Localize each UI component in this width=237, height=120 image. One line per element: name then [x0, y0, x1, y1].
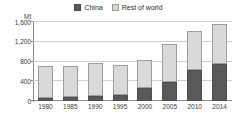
y-axis-ticks: 04008001,2001,600 — [0, 22, 31, 101]
bar-segment-china-1995[interactable] — [113, 95, 128, 101]
x-tick-label-1980: 1980 — [33, 103, 58, 111]
bar-segment-rest-of-world-2005[interactable] — [162, 44, 177, 82]
plot-area — [33, 22, 232, 101]
x-tick-label-2010: 2010 — [182, 103, 207, 111]
bar-group-1990[interactable] — [88, 22, 103, 101]
bar-segment-rest-of-world-2014[interactable] — [212, 24, 227, 64]
y-tick-label-400: 400 — [1, 78, 31, 85]
x-tick-label-2005: 2005 — [157, 103, 182, 111]
legend-item-china[interactable]: China — [74, 4, 102, 12]
x-tick-label-2014: 2014 — [207, 103, 232, 111]
x-tick-label-1990: 1990 — [83, 103, 108, 111]
bar-segment-rest-of-world-1990[interactable] — [88, 63, 103, 96]
bar-segment-rest-of-world-2010[interactable] — [187, 31, 202, 71]
bar-group-2005[interactable] — [162, 22, 177, 101]
bar-segment-china-2005[interactable] — [162, 82, 177, 101]
bar-segment-china-1985[interactable] — [63, 97, 78, 101]
legend-label-rest-of-world: Rest of world — [122, 4, 163, 12]
x-axis-labels: 19801985199019952000200520102014 — [33, 103, 232, 115]
x-tick-label-2000: 2000 — [133, 103, 158, 111]
bar-segment-rest-of-world-1980[interactable] — [38, 66, 53, 97]
y-tick-label-1200: 1,200 — [1, 38, 31, 45]
bar-group-1995[interactable] — [113, 22, 128, 101]
y-tick-label-0: 0 — [1, 98, 31, 105]
bar-segment-china-2014[interactable] — [212, 64, 227, 101]
bar-segment-rest-of-world-2000[interactable] — [137, 60, 152, 88]
bar-segment-rest-of-world-1985[interactable] — [63, 66, 78, 97]
bar-segment-rest-of-world-1995[interactable] — [113, 65, 128, 95]
bar-group-2014[interactable] — [212, 22, 227, 101]
legend-label-china: China — [84, 4, 102, 12]
bar-segment-china-2010[interactable] — [187, 70, 202, 101]
bar-group-1985[interactable] — [63, 22, 78, 101]
bar-segment-china-1990[interactable] — [88, 96, 103, 101]
bar-group-2000[interactable] — [137, 22, 152, 101]
chart-legend: China Rest of world — [0, 1, 237, 14]
x-tick-label-1985: 1985 — [58, 103, 83, 111]
bar-segment-china-2000[interactable] — [137, 88, 152, 101]
china-swatch-icon — [74, 4, 81, 11]
y-tick-label-800: 800 — [1, 58, 31, 65]
rest-of-world-swatch-icon — [112, 4, 119, 11]
bar-group-1980[interactable] — [38, 22, 53, 101]
bar-group-2010[interactable] — [187, 22, 202, 101]
x-tick-label-1995: 1995 — [108, 103, 133, 111]
y-tick-label-1600: 1,600 — [1, 19, 31, 26]
bar-series-container — [33, 22, 232, 101]
stacked-bar-chart: China Rest of world Mt 04008001,2001,600… — [0, 0, 237, 120]
legend-item-rest-of-world[interactable]: Rest of world — [112, 4, 163, 12]
bar-segment-china-1980[interactable] — [38, 98, 53, 101]
